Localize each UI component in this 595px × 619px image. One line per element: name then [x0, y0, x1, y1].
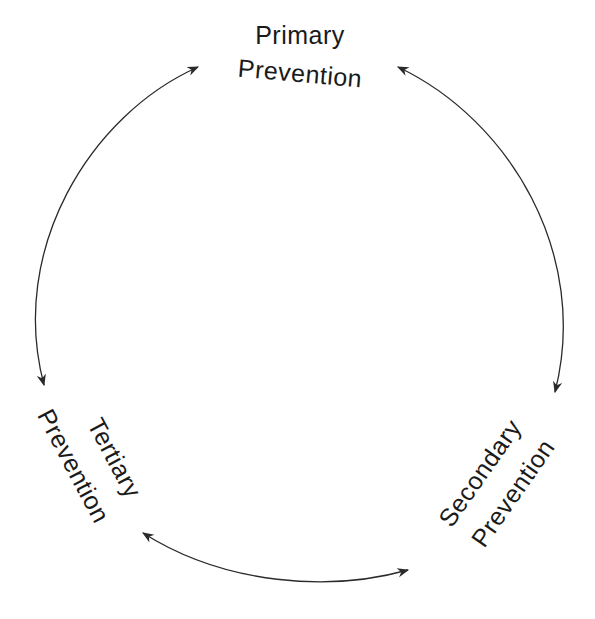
node-primary-prevention: Primary Prevention [237, 21, 363, 92]
prevention-cycle-diagram: Primary Prevention Tertiary Prevention S… [0, 0, 595, 619]
primary-label-line1: Primary [255, 21, 345, 49]
node-secondary-prevention: Secondary Prevention [433, 414, 560, 552]
arrow-tertiary-secondary [143, 533, 408, 582]
node-tertiary-prevention: Tertiary Prevention [32, 404, 147, 527]
arrow-primary-tertiary [35, 67, 198, 385]
primary-label-line2: Prevention [237, 54, 363, 93]
arrow-primary-secondary [398, 67, 563, 392]
